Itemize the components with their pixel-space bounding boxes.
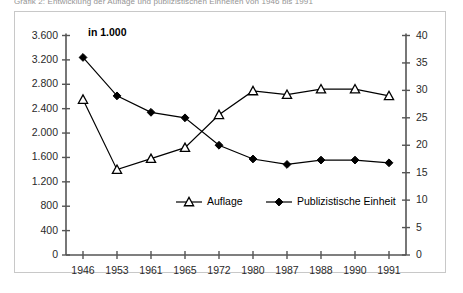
marker-filled-diamond [283, 161, 291, 169]
marker-filled-diamond [351, 156, 359, 164]
y-axis-left-tick-label: 3.200 [14, 53, 58, 65]
marker-filled-diamond [275, 198, 283, 206]
y-axis-left-tick-label: 800 [14, 199, 58, 211]
y-axis-right-tick-label: 35 [416, 56, 456, 68]
y-axis-left-tick-label: 2.400 [14, 102, 58, 114]
y-axis-left-tick-label: 2.800 [14, 77, 58, 89]
y-axis-right-tick-label: 25 [416, 111, 456, 123]
y-axis-right-tick-label: 5 [416, 221, 456, 233]
marker-open-triangle [78, 95, 87, 103]
y-axis-left-tick-label: 3.600 [14, 29, 58, 41]
y-axis-right-tick-label: 10 [416, 193, 456, 205]
y-axis-right-tick-label: 20 [416, 138, 456, 150]
marker-open-triangle [214, 110, 223, 118]
chart-canvas [0, 0, 463, 293]
marker-open-triangle [248, 86, 257, 94]
y-axis-right-tick-label: 15 [416, 166, 456, 178]
y-axis-left-tick-label: 400 [14, 224, 58, 236]
marker-filled-diamond [147, 108, 155, 116]
y-axis-right-tick-label: 0 [416, 248, 456, 260]
legend-label-auflage: Auflage [207, 195, 243, 207]
y-axis-left-tick-label: 0 [14, 248, 58, 260]
y-axis-right-tick-label: 40 [416, 29, 456, 41]
marker-filled-diamond [249, 155, 257, 163]
legend-label-einheit: Publizistische Einheit [297, 195, 396, 207]
axes-group [62, 34, 410, 260]
series-line-einheit [83, 57, 389, 164]
marker-filled-diamond [317, 156, 325, 164]
marker-filled-diamond [385, 159, 393, 167]
x-axis-tick-label: 1991 [369, 264, 409, 276]
y-axis-left-tick-label: 1.600 [14, 150, 58, 162]
y-axis-right-tick-label: 30 [416, 83, 456, 95]
series-group [78, 54, 393, 174]
y-axis-left-tick-label: 2.000 [14, 126, 58, 138]
y-axis-left-tick-label: 1.200 [14, 175, 58, 187]
